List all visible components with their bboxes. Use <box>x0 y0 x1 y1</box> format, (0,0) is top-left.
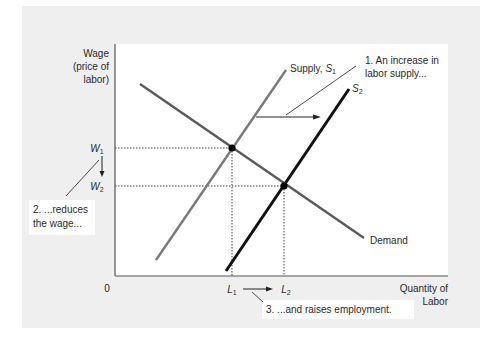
demand-label: Demand <box>370 235 408 246</box>
x-axis-label-line-1: Quantity of <box>400 283 449 294</box>
annotation-2-line-1: 2. ...reduces <box>33 204 88 215</box>
y-axis-label-line-3: labor) <box>83 74 109 85</box>
x-axis-label-line-2: Labor <box>422 296 448 307</box>
annotation-1-line-1: 1. An increase in <box>365 55 439 66</box>
supply-s1-label: Supply, S1 <box>290 63 336 75</box>
y-axis-label-line-1: Wage <box>83 48 109 59</box>
chart-svg: Wage (price of labor) Quantity of Labor … <box>0 0 492 342</box>
y-axis-label-line-2: (price of <box>73 61 109 72</box>
origin-label: 0 <box>104 283 110 294</box>
chart-figure: Wage (price of labor) Quantity of Labor … <box>0 0 492 342</box>
annotation-1-line-2: labor supply... <box>365 68 427 79</box>
equilibrium-point-2 <box>280 182 287 189</box>
annotation-2-line-2: the wage... <box>33 218 82 229</box>
annotation-3-line-1: 3. ...and raises employment. <box>266 304 392 315</box>
equilibrium-point-1 <box>228 144 235 151</box>
